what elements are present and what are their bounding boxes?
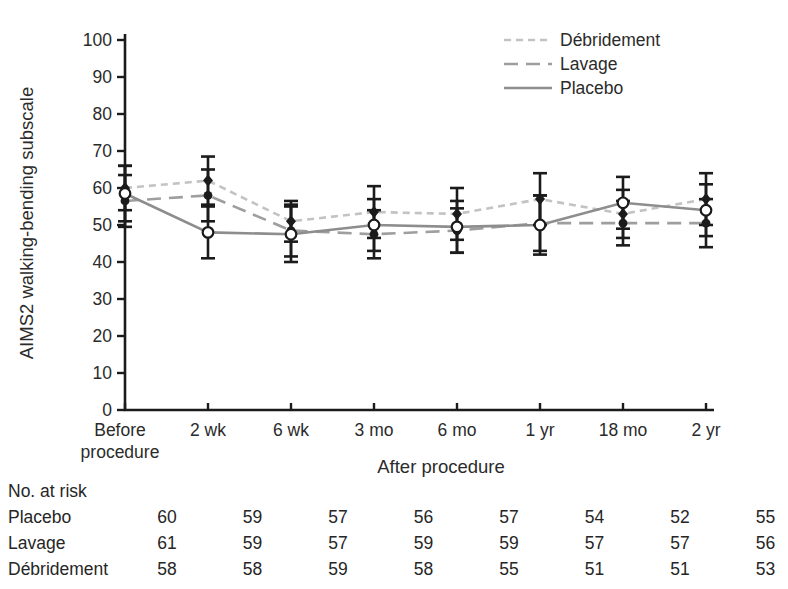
- y-tick-label: 10: [93, 363, 113, 383]
- x-tick-label: 2 wk: [190, 420, 226, 440]
- risk-value: 56: [402, 507, 446, 528]
- risk-value: 58: [145, 559, 189, 580]
- risk-row-debridement: Débridement 5858595855515153: [0, 559, 788, 583]
- risk-value: 55: [744, 507, 788, 528]
- risk-value: 59: [231, 507, 275, 528]
- risk-row-label-lavage: Lavage: [8, 533, 65, 554]
- risk-value: 51: [658, 559, 702, 580]
- risk-value: 57: [316, 507, 360, 528]
- x-tick-label: 6 wk: [273, 420, 309, 440]
- y-tick-label: 40: [93, 252, 113, 272]
- y-tick-label: 20: [93, 326, 113, 346]
- risk-value: 57: [487, 507, 531, 528]
- risk-value: 51: [573, 559, 617, 580]
- risk-row-label-debridement: Débridement: [8, 559, 108, 580]
- y-tick-label: 80: [93, 104, 113, 124]
- y-tick-label: 90: [93, 67, 113, 87]
- risk-value: 59: [231, 533, 275, 554]
- risk-value: 57: [658, 533, 702, 554]
- risk-row-label-placebo: Placebo: [8, 507, 71, 528]
- legend-label-debridement: Débridement: [560, 30, 660, 50]
- risk-table-title: No. at risk: [8, 481, 87, 502]
- x-tick-label: 2 yr: [691, 420, 720, 440]
- risk-row-lavage: Lavage 6159575959575756: [0, 533, 788, 557]
- legend-label-lavage: Lavage: [560, 54, 617, 74]
- risk-value: 58: [402, 559, 446, 580]
- risk-row-placebo: Placebo 6059575657545255: [0, 507, 788, 531]
- x-tick-label: 1 yr: [525, 420, 554, 440]
- x-tick-label: 3 mo: [355, 420, 394, 440]
- risk-value: 59: [487, 533, 531, 554]
- risk-value: 60: [145, 507, 189, 528]
- risk-value: 55: [487, 559, 531, 580]
- x-tick-label: 18 mo: [599, 420, 648, 440]
- y-tick-label: 30: [93, 289, 113, 309]
- y-tick-label: 0: [102, 400, 112, 420]
- y-tick-label: 100: [83, 30, 112, 50]
- legend-label-placebo: Placebo: [560, 78, 623, 98]
- legend: DébridementLavagePlacebo: [504, 30, 660, 98]
- risk-value: 56: [744, 533, 788, 554]
- risk-value: 57: [573, 533, 617, 554]
- risk-value: 52: [658, 507, 702, 528]
- line-chart: 0102030405060708090100Beforeprocedure2 w…: [0, 0, 788, 480]
- risk-value: 61: [145, 533, 189, 554]
- figure: 0102030405060708090100Beforeprocedure2 w…: [0, 0, 788, 589]
- risk-value: 59: [402, 533, 446, 554]
- risk-value: 54: [573, 507, 617, 528]
- y-tick-label: 60: [93, 178, 113, 198]
- y-tick-label: 50: [93, 215, 113, 235]
- y-tick-label: 70: [93, 141, 113, 161]
- risk-value: 59: [316, 559, 360, 580]
- risk-value: 57: [316, 533, 360, 554]
- risk-value: 53: [744, 559, 788, 580]
- x-axis-title: After procedure: [377, 456, 505, 477]
- x-tick-label: Beforeprocedure: [81, 420, 160, 462]
- y-axis-title: AIMS2 walking-bending subscale: [16, 87, 37, 360]
- risk-value: 58: [231, 559, 275, 580]
- x-tick-label: 6 mo: [438, 420, 477, 440]
